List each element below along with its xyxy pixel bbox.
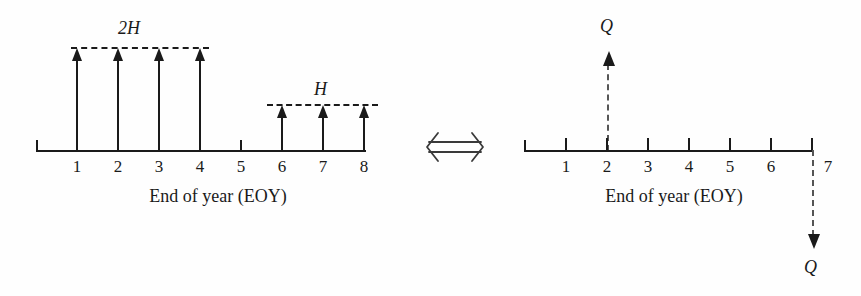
arrow-head-icon	[359, 105, 369, 118]
arrow-head-icon	[808, 234, 820, 249]
right-axis-origin-tick	[524, 140, 526, 151]
arrow-head-icon	[603, 51, 615, 66]
outflow-arrow-year-7	[812, 150, 814, 236]
left-time-axis	[36, 150, 366, 152]
left-tick-label-5: 5	[230, 158, 252, 175]
equivalence-double-arrow-icon	[424, 127, 486, 167]
left-tick-year-8	[363, 138, 365, 151]
right-time-axis	[524, 150, 812, 152]
left-tick-label-2: 2	[107, 158, 129, 175]
left-tick-year-1	[76, 138, 78, 151]
left-tick-label-4: 4	[189, 158, 211, 175]
arrow-head-icon	[318, 105, 328, 118]
right-tick-year-6	[770, 138, 772, 151]
left-tick-label-8: 8	[353, 158, 375, 175]
arrow-head-icon	[277, 105, 287, 118]
arrow-head-icon	[72, 48, 82, 61]
bracket-line-2h	[71, 47, 209, 49]
left-tick-year-5	[240, 140, 242, 151]
left-tick-year-3	[158, 138, 160, 151]
left-axis-origin-tick	[36, 140, 38, 151]
right-tick-label-2: 2	[596, 158, 618, 175]
left-tick-label-1: 1	[66, 158, 88, 175]
inflow-label-q: Q	[600, 17, 613, 35]
bracket-label-2h: 2H	[118, 19, 140, 37]
left-tick-year-4	[199, 138, 201, 151]
left-tick-year-6	[281, 138, 283, 151]
right-tick-label-6: 6	[760, 158, 782, 175]
left-tick-label-6: 6	[271, 158, 293, 175]
right-tick-label-1: 1	[555, 158, 577, 175]
cash-flow-equivalence-figure: 2H H 1 2 3 4 5 6 7 8	[0, 0, 861, 296]
arrow-head-icon	[154, 48, 164, 61]
bracket-label-h: H	[314, 80, 327, 98]
left-tick-year-2	[117, 138, 119, 151]
right-tick-label-5: 5	[719, 158, 741, 175]
arrow-head-icon	[195, 48, 205, 61]
right-tick-year-5	[729, 138, 731, 151]
outflow-label-q: Q	[804, 258, 817, 276]
arrow-head-icon	[113, 48, 123, 61]
left-axis-caption: End of year (EOY)	[118, 187, 318, 205]
left-tick-year-7	[322, 138, 324, 151]
right-tick-year-3	[647, 138, 649, 151]
left-tick-label-3: 3	[148, 158, 170, 175]
right-tick-label-7: 7	[817, 158, 839, 175]
left-tick-label-7: 7	[312, 158, 334, 175]
right-axis-caption: End of year (EOY)	[574, 187, 774, 205]
right-tick-label-4: 4	[678, 158, 700, 175]
right-tick-label-3: 3	[637, 158, 659, 175]
right-tick-year-4	[688, 138, 690, 151]
right-tick-year-1	[565, 138, 567, 151]
right-tick-year-2	[606, 138, 608, 151]
